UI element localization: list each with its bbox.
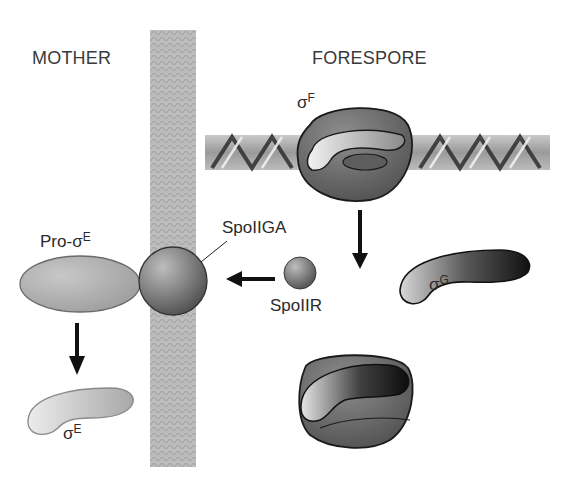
region-label-forespore: FORESPORE: [312, 48, 427, 69]
sigma-g-shape: [400, 250, 529, 304]
arrow-down-mother: [69, 323, 85, 375]
spoiiga-leader-line: [201, 241, 227, 262]
rna-polymerase-sigma-g: [299, 355, 412, 448]
arrow-down-forespore: [352, 210, 368, 269]
label-spoiiga: SpoIIGA: [222, 218, 286, 238]
label-sigma-e: σE: [63, 424, 82, 444]
region-label-mother: MOTHER: [32, 48, 111, 69]
label-sigma-g: σG: [429, 275, 449, 295]
arrow-left-signal: [226, 271, 275, 287]
label-pro-sigma-e: Pro-σE: [40, 232, 91, 252]
spoiir-sphere: [284, 257, 316, 289]
rna-polymerase-sigma-f: [298, 108, 413, 201]
label-spoiir: SpoIIR: [270, 296, 322, 316]
spoiiga-sphere: [139, 247, 207, 315]
pro-sigma-e-oval: [20, 256, 140, 312]
label-sigma-f: σF: [297, 93, 315, 113]
